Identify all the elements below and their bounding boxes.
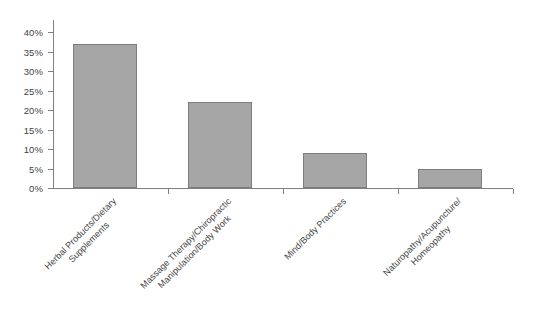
bar-chart: 0%5%10%15%20%25%30%35%40% Herbal Product… [0,0,537,323]
bar [418,169,482,189]
category-label-line: Herbal Products/Dietary [42,196,119,273]
y-axis-tick [48,32,53,33]
y-axis-tick-label: 15% [3,124,43,135]
x-axis-tick [398,189,399,194]
x-axis-tick [283,189,284,194]
category-label-line: Mind/Body Practices [282,196,349,263]
x-axis-category-label: Naturopathy/Acupuncture/Homeopathy [381,196,472,287]
x-axis-tick [168,189,169,194]
bar [303,153,367,188]
x-axis-category-label: Herbal Products/DietarySupplements [42,196,127,281]
y-axis-tick [48,149,53,150]
y-axis-tick [48,188,53,189]
bar [73,44,137,188]
x-axis-category-label: Mind/Body Practices [282,196,349,263]
y-axis-tick [48,110,53,111]
y-axis-tick [48,169,53,170]
y-axis-line [53,20,54,189]
category-label-line: Massage Therapy/Chiropractic [138,196,234,292]
y-axis-tick-label: 5% [3,163,43,174]
bar [188,102,252,188]
y-axis-tick-label: 0% [3,183,43,194]
category-label-line: Naturopathy/Acupuncture/ [381,196,464,279]
y-axis-tick [48,52,53,53]
x-axis-tick [513,189,514,194]
y-axis-tick [48,71,53,72]
y-axis-tick-label: 25% [3,85,43,96]
category-label-line: Supplements [50,204,127,281]
y-axis-tick [48,130,53,131]
y-axis-tick [48,91,53,92]
y-axis-tick-label: 30% [3,66,43,77]
y-axis-tick-label: 20% [3,105,43,116]
y-axis-tick-label: 35% [3,46,43,57]
y-axis-tick-label: 40% [3,27,43,38]
x-axis-category-label: Massage Therapy/ChiropracticManipulation… [138,196,242,300]
category-label-line: Manipulation/Body Work [146,204,242,300]
y-axis-tick-label: 10% [3,144,43,155]
category-label-line: Homeopathy [389,204,472,287]
